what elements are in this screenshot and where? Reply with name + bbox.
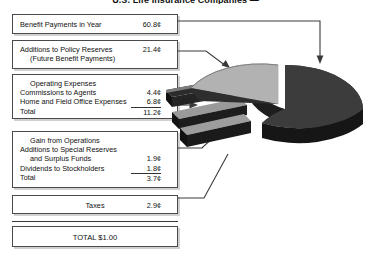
gain-total-label: Total xyxy=(20,173,35,182)
gain-heading: Gain from Operations xyxy=(30,136,100,145)
operating-row1-label: Commissions to Agents xyxy=(20,88,96,97)
operating-row2-label: Home and Field Office Expenses xyxy=(20,97,127,106)
grand-total-label: TOTAL $1.00 xyxy=(13,233,177,242)
reserves-sublabel: (Future Benefit Payments) xyxy=(30,54,115,63)
reserves-label: Additions to Policy Reserves xyxy=(20,45,112,54)
benefit-label: Benefit Payments in Year xyxy=(20,20,102,29)
gain-row1-label: Additions to Special Reserves xyxy=(20,145,117,154)
operating-total-label: Total xyxy=(20,107,35,116)
section-divider xyxy=(12,221,178,222)
chart-title: U.S. Life Insurance Companies — xyxy=(0,0,371,4)
operating-heading: Operating Expenses xyxy=(30,79,96,88)
gain-row2-label: Dividends to Stockholders xyxy=(20,164,104,173)
callout-grand-total: TOTAL $1.00 xyxy=(12,226,178,247)
gain-row1-label2: and Surplus Funds xyxy=(30,154,91,163)
pie-chart xyxy=(150,8,371,218)
